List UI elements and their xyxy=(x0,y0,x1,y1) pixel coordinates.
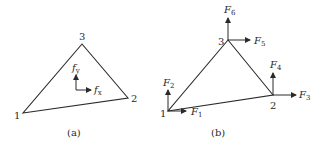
caption-a: (a) xyxy=(67,127,81,138)
node-label-1-b: 1 xyxy=(160,108,166,119)
F3-label: F3 xyxy=(298,89,310,102)
node-label-3-a: 3 xyxy=(79,31,85,42)
F4-label: F4 xyxy=(269,59,282,72)
F6-label: F6 xyxy=(223,4,236,17)
node-label-3-b: 3 xyxy=(218,36,224,47)
F5-label: F5 xyxy=(253,35,265,48)
node-label-1-a: 1 xyxy=(14,110,20,121)
triangle-element-b xyxy=(168,40,273,111)
F1-label: F1 xyxy=(190,106,202,119)
fy-label: fy xyxy=(71,62,80,75)
node-label-2-a: 2 xyxy=(131,93,137,104)
F2-label: F2 xyxy=(162,77,174,90)
panel-a: 1 2 3 fy fx (a) xyxy=(14,31,137,138)
fx-label: fx xyxy=(93,84,102,97)
node-label-2-b: 2 xyxy=(270,100,276,111)
triangle-element-figure: 1 2 3 fy fx (a) 1 2 3 F1 F2 F3 F4 F5 F6 … xyxy=(0,0,324,147)
panel-b: 1 2 3 F1 F2 F3 F4 F5 F6 (b) xyxy=(160,4,310,138)
caption-b: (b) xyxy=(211,127,225,138)
